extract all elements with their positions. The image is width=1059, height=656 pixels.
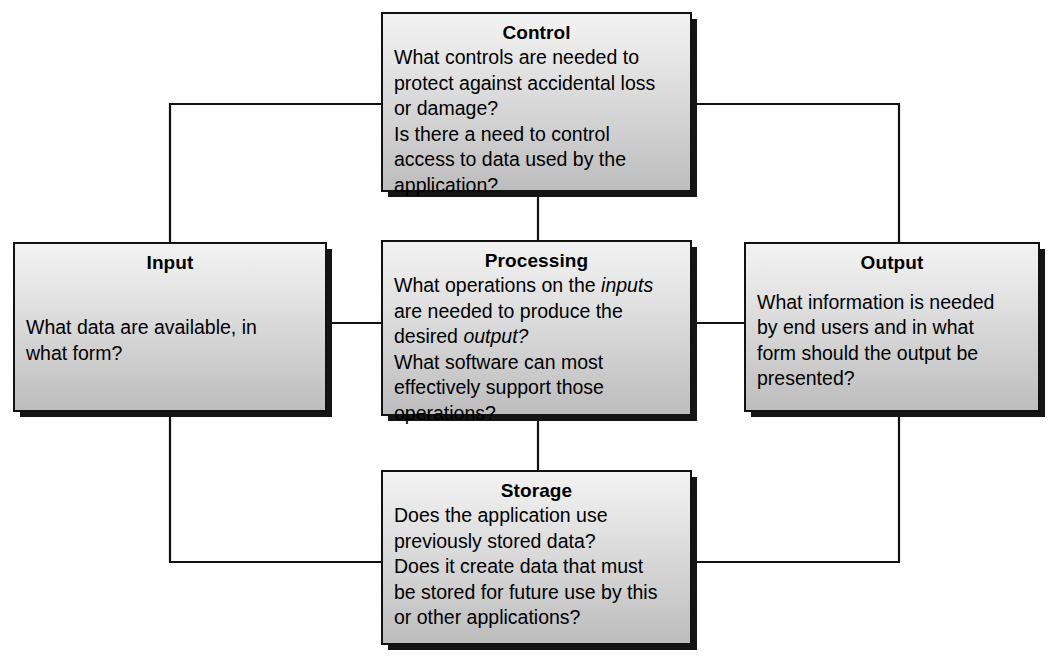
connector-output-storage xyxy=(693,413,899,562)
node-storage-body: Does the application use previously stor… xyxy=(394,503,679,631)
node-input[interactable]: Input What data are available, in what f… xyxy=(13,242,327,412)
connector-control-input xyxy=(170,104,381,242)
node-output-title: Output xyxy=(757,250,1027,275)
node-storage-title: Storage xyxy=(394,478,679,503)
node-processing[interactable]: Processing What operations on the inputs… xyxy=(381,240,692,416)
node-control-body: What controls are needed to protect agai… xyxy=(394,45,679,198)
node-storage[interactable]: Storage Does the application use previou… xyxy=(381,470,692,645)
connector-input-storage xyxy=(170,413,381,562)
node-output-body: What information is needed by end users … xyxy=(757,275,1027,406)
node-input-title: Input xyxy=(26,250,314,275)
node-output[interactable]: Output What information is needed by end… xyxy=(744,242,1040,412)
node-control[interactable]: Control What controls are needed to prot… xyxy=(381,12,692,192)
node-processing-body: What operations on the inputs are needed… xyxy=(394,273,679,426)
node-control-title: Control xyxy=(394,20,679,45)
node-processing-title: Processing xyxy=(394,248,679,273)
node-input-body: What data are available, in what form? xyxy=(26,275,314,406)
diagram-canvas: Control What controls are needed to prot… xyxy=(0,0,1059,656)
connector-control-output xyxy=(693,104,899,242)
